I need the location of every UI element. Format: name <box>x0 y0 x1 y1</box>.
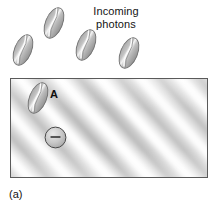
photon-icon-1 <box>13 33 33 67</box>
incoming-photons-label-line1: Incoming <box>78 5 154 18</box>
photon-icon-2 <box>44 6 64 40</box>
photon-icon-4 <box>119 36 139 70</box>
incoming-photons-label: Incoming photons <box>78 5 154 30</box>
photon-icon-a <box>28 81 48 115</box>
photon-icon-3 <box>76 28 96 62</box>
photoelectric-effect-figure: Incoming photons <box>0 0 218 219</box>
panel-label: (a) <box>9 188 22 200</box>
photon-a-label: A <box>50 88 58 100</box>
electron-icon <box>44 126 67 149</box>
